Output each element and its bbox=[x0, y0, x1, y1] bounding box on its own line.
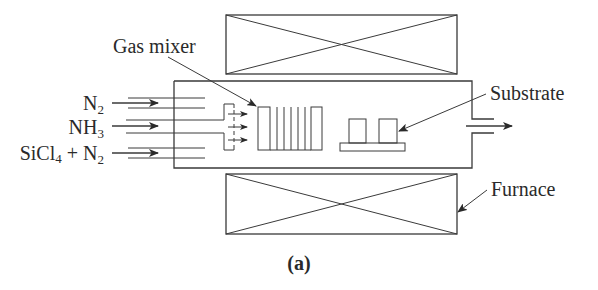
substrate bbox=[340, 119, 405, 151]
inlet-pipe-n2 bbox=[112, 98, 205, 108]
inlet-pipe-nh3 bbox=[112, 104, 234, 150]
figure-caption: (a) bbox=[287, 252, 310, 275]
cvd-reactor-diagram: Gas mixer Substrate Furnace N2 NH3 SiCl4… bbox=[0, 0, 598, 290]
furnace-label: Furnace bbox=[491, 178, 556, 200]
furnace-leader-arrow-icon bbox=[458, 190, 487, 212]
inlet-label-sicl4-n2: SiCl4 + N2 bbox=[20, 142, 104, 167]
nozzle-outlets bbox=[228, 110, 247, 146]
gas-mixer-label: Gas mixer bbox=[113, 35, 196, 57]
inlet-label-n2: N2 bbox=[83, 92, 104, 117]
substrate-label: Substrate bbox=[490, 82, 565, 104]
inlet-label-nh3: NH3 bbox=[69, 116, 104, 141]
bottom-furnace bbox=[226, 174, 457, 234]
reaction-tube bbox=[174, 81, 494, 168]
gas-mixer bbox=[258, 107, 322, 150]
inlet-pipe-sicl4-n2 bbox=[112, 148, 205, 158]
top-furnace bbox=[226, 15, 457, 74]
